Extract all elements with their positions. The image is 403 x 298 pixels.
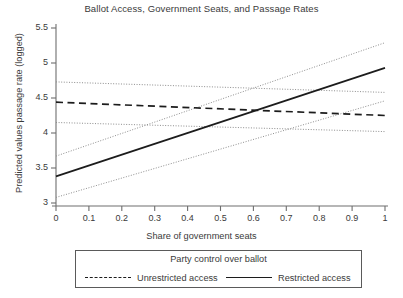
x-tick-label: 1 bbox=[372, 213, 398, 223]
x-tick-label: 0.3 bbox=[142, 213, 168, 223]
legend: Party control over ballot Unrestricted a… bbox=[75, 250, 362, 288]
legend-item-restricted-access[interactable]: Restricted access bbox=[226, 270, 351, 286]
x-tick-label: 0.4 bbox=[175, 213, 201, 223]
x-tick-label: 0.1 bbox=[76, 213, 102, 223]
y-tick-marks bbox=[51, 28, 56, 203]
chart-figure: Ballot Access, Government Seats, and Pas… bbox=[0, 0, 403, 298]
legend-item-unrestricted-access[interactable]: Unrestricted access bbox=[85, 270, 218, 286]
series-line-restricted-access bbox=[56, 68, 385, 176]
x-tick-label: 0.8 bbox=[306, 213, 332, 223]
legend-title: Party control over ballot bbox=[76, 254, 361, 264]
ci-upper-restricted-access bbox=[56, 43, 385, 156]
y-tick-label: 5.5 bbox=[22, 22, 48, 32]
x-tick-label: 0 bbox=[43, 213, 69, 223]
x-tick-label: 0.9 bbox=[339, 213, 365, 223]
y-tick-label: 3 bbox=[22, 197, 48, 207]
ci-lower-unrestricted-access bbox=[56, 123, 385, 132]
series-lines bbox=[56, 68, 385, 176]
legend-entries: Unrestricted access Restricted access bbox=[76, 270, 361, 286]
ci-lower-restricted-access bbox=[56, 101, 385, 198]
y-tick-label: 4 bbox=[22, 127, 48, 137]
legend-item-label: Restricted access bbox=[278, 273, 351, 283]
x-tick-label: 0.6 bbox=[240, 213, 266, 223]
x-tick-marks bbox=[56, 206, 385, 211]
y-tick-label: 5 bbox=[22, 57, 48, 67]
solid-line-icon bbox=[226, 273, 272, 283]
x-tick-label: 0.7 bbox=[273, 213, 299, 223]
y-tick-label: 3.5 bbox=[22, 162, 48, 172]
x-tick-label: 0.5 bbox=[208, 213, 234, 223]
legend-item-label: Unrestricted access bbox=[137, 273, 218, 283]
dashed-line-icon bbox=[85, 273, 131, 283]
confidence-interval-lines bbox=[56, 43, 385, 198]
axis-lines bbox=[52, 24, 388, 206]
x-tick-label: 0.2 bbox=[109, 213, 135, 223]
series-line-unrestricted-access bbox=[56, 102, 385, 115]
y-tick-label: 4.5 bbox=[22, 92, 48, 102]
